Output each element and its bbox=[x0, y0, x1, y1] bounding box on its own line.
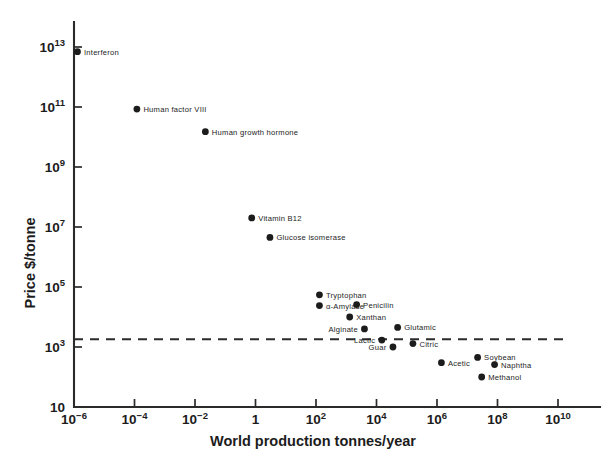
point-label-vitamin-b12: Vitamin B12 bbox=[258, 213, 302, 222]
data-point-human-growth-hormone bbox=[202, 128, 209, 135]
x-tick-label-3: 1 bbox=[252, 412, 260, 427]
point-label-alginate: Alginate bbox=[329, 324, 358, 333]
data-point-methanol bbox=[478, 374, 485, 381]
data-point-interferon bbox=[74, 48, 81, 55]
data-point-naphtha bbox=[491, 361, 498, 368]
point-label-human-growth-hormone: Human growth hormone bbox=[212, 127, 298, 136]
y-tick-label-2: 109 bbox=[45, 160, 65, 175]
y-tick-label-0: 1013 bbox=[39, 40, 65, 55]
point-label-methanol: Methanol bbox=[488, 373, 521, 382]
point-label-acetic: Acetic bbox=[448, 358, 470, 367]
axis-lines bbox=[74, 22, 600, 407]
data-point-vitamin-b12 bbox=[248, 215, 255, 222]
data-point-guar bbox=[390, 344, 397, 351]
data-point-glutamic bbox=[394, 324, 401, 331]
point-label-citric: Citric bbox=[419, 339, 438, 348]
y-axis-title: Price $/tonne bbox=[22, 217, 38, 308]
point-label-naphtha: Naphtha bbox=[501, 360, 531, 369]
point-label-penicilin: Penicilin bbox=[363, 300, 394, 309]
x-tick-label-1: 10−4 bbox=[122, 412, 148, 427]
x-tick-label-5: 104 bbox=[366, 412, 386, 427]
data-point-alginate bbox=[361, 326, 368, 333]
point-label-glutamic: Glutamic bbox=[404, 323, 436, 332]
x-tick-label-6: 106 bbox=[427, 412, 447, 427]
point-label-xanthan: Xanthan bbox=[356, 313, 386, 322]
data-point-glucose-isomerase bbox=[267, 234, 274, 241]
data-point-citric bbox=[410, 340, 417, 347]
x-axis-title: World production tonnes/year bbox=[210, 433, 416, 449]
data-point-acetic bbox=[438, 359, 445, 366]
x-tick-label-8: 1010 bbox=[545, 412, 571, 427]
x-tick-label-2: 10−2 bbox=[182, 412, 208, 427]
x-tick-label-7: 108 bbox=[487, 412, 507, 427]
point-label-interferon: Interferon bbox=[84, 47, 119, 56]
x-tick-label-0: 10−6 bbox=[61, 412, 87, 427]
data-point-amylase bbox=[316, 302, 323, 309]
data-point-xanthan bbox=[346, 314, 353, 321]
y-tick-label-3: 107 bbox=[45, 220, 65, 235]
y-tick-label-5: 103 bbox=[45, 340, 65, 355]
point-label-human-factor-viii: Human factor VIII bbox=[143, 105, 206, 114]
axes-group bbox=[74, 22, 600, 407]
scatter-chart-figure: 1013101110910710510310 10−610−410−211021… bbox=[0, 0, 613, 471]
data-point-human-factor-viii bbox=[134, 106, 141, 113]
y-tick-label-4: 105 bbox=[45, 280, 65, 295]
x-tick-label-4: 102 bbox=[306, 412, 326, 427]
data-point-tryptophan bbox=[316, 291, 323, 298]
point-label-guar: Guar bbox=[369, 343, 387, 352]
point-label-amylase: α-Amylase bbox=[326, 301, 364, 310]
point-label-glucose-isomerase: Glucose isomerase bbox=[276, 233, 345, 242]
y-tick-label-1: 1011 bbox=[40, 100, 65, 115]
point-label-tryptophan: Tryptophan bbox=[326, 290, 367, 299]
data-point-soybean bbox=[474, 354, 481, 361]
